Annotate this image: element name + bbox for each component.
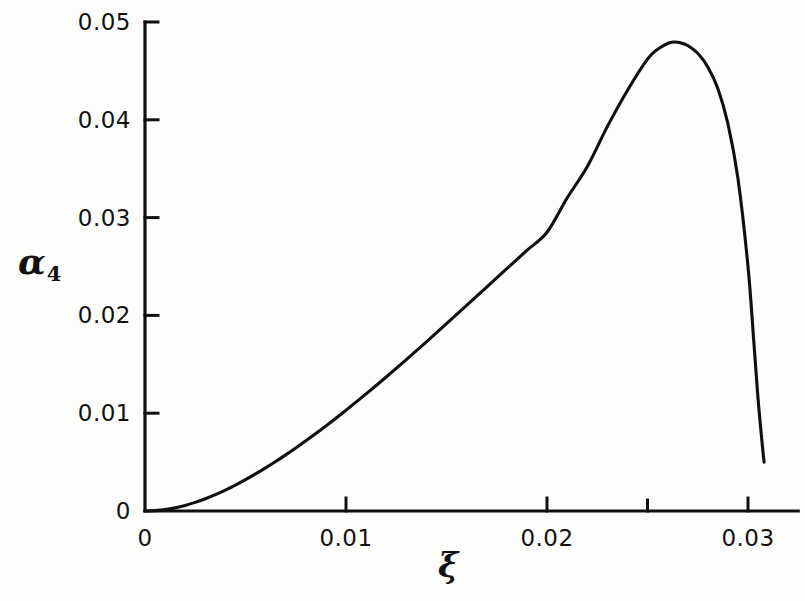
y-tick-label-1: 0.01: [78, 400, 131, 426]
y-tick-label-5: 0.05: [78, 9, 131, 35]
ticks-group: [145, 22, 748, 511]
x-tick-label-0: 0: [137, 525, 152, 551]
axes-group: [145, 22, 798, 511]
y-axis-label-subscript: 4: [47, 261, 62, 286]
x-axis-label: ξ: [438, 548, 458, 582]
data-curve-alpha4: [145, 42, 764, 511]
y-axis-label: α4: [18, 243, 61, 284]
y-tick-label-3: 0.03: [78, 205, 131, 231]
y-tick-label-0: 0: [116, 498, 131, 524]
x-tick-label-4: 0.03: [721, 525, 774, 551]
y-tick-label-4: 0.04: [78, 107, 131, 133]
figure-container: 00.010.020.030.040.05 00.010.020.03 α4 ξ: [0, 0, 805, 601]
curve-group: [145, 42, 764, 511]
x-tick-label-1: 0.01: [319, 525, 372, 551]
x-tick-label-2: 0.02: [520, 525, 573, 551]
y-tick-label-2: 0.02: [78, 302, 131, 328]
